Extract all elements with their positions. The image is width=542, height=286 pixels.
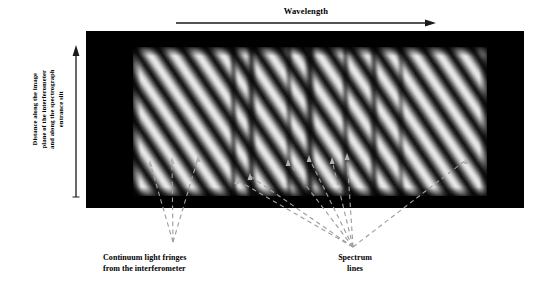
interferogram-panel [86, 31, 524, 208]
interference-fringe-pattern [133, 47, 487, 196]
spectrum-caption-line-1: Spectrum [312, 253, 398, 264]
distance-axis-label: Distance along the image plane of the in… [31, 49, 65, 169]
arrow-up-icon [70, 44, 82, 198]
distance-label-line-4: entrance slit [57, 49, 66, 169]
distance-label-line-3: and along the spectrograph [48, 49, 57, 169]
fringe-field [133, 47, 487, 196]
distance-label-line-1: Distance along the image [31, 49, 40, 169]
continuum-callout-caption: Continuum light fringes from the interfe… [103, 253, 253, 274]
wavelength-axis-label: Wavelength [175, 6, 437, 16]
figure-root: Wavelength Distance along the image plan… [0, 0, 542, 286]
distance-label-line-2: plane of the interferometer [39, 49, 48, 169]
continuum-caption-line-2: from the interferometer [103, 264, 253, 275]
continuum-caption-line-1: Continuum light fringes [103, 253, 253, 264]
distance-axis: Distance along the image plane of the in… [18, 44, 84, 200]
spectrum-caption-line-2: lines [312, 264, 398, 275]
arrow-right-icon [175, 17, 437, 28]
spectrum-callout-caption: Spectrum lines [312, 253, 398, 274]
wavelength-axis: Wavelength [175, 6, 437, 28]
